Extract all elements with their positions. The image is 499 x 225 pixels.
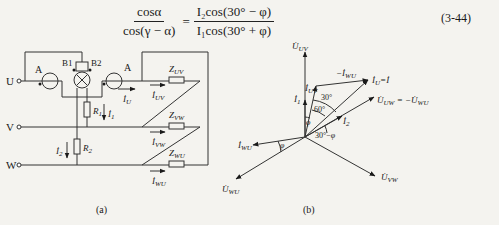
caption-b: (b) (303, 204, 315, 216)
label-i-uv: İUV (304, 83, 318, 95)
label-w: W (6, 159, 17, 171)
impedance-zvw (169, 123, 184, 129)
ammeter-1 (42, 73, 58, 89)
label-i1: İ1 (293, 94, 301, 106)
label-angle-30: 30° (321, 93, 332, 102)
label-i2: İ2 (55, 146, 63, 158)
label-b2: B2 (91, 58, 102, 68)
label-ammeter-1: A (35, 64, 43, 75)
label-iuv: İUV (151, 90, 165, 102)
label-angle-phi-1: φ (306, 118, 311, 127)
label-u: U (6, 75, 14, 87)
ammeter-2 (106, 73, 122, 89)
vector-neg-i-wu (316, 80, 368, 86)
caption-a: (a) (96, 204, 107, 216)
label-u-uw: U̇UW = −U̇WU (377, 95, 429, 107)
resistor-r1 (84, 102, 90, 117)
label-i-u: İU=İ (371, 75, 390, 87)
label-zwu: ZWU (169, 148, 186, 160)
phase-meter (74, 72, 90, 88)
terminal-u (17, 79, 21, 83)
label-u-vw: U̇VW (381, 172, 399, 184)
label-i1: İ1 (107, 109, 115, 121)
label-iwu: İWU (151, 176, 167, 188)
label-r2: R2 (82, 143, 93, 155)
label-u-wu: U̇WU (222, 184, 240, 196)
label-angle-30-minus-phi: 30°−φ (315, 131, 336, 140)
label-r1: R1 (92, 106, 102, 118)
label-angle-60: 60° (314, 105, 325, 114)
label-i-wu: İWU (237, 140, 253, 152)
label-ammeter-2: A (124, 62, 132, 73)
label-i2: İ2 (342, 116, 350, 128)
terminal-w (17, 163, 21, 167)
terminal-v (17, 125, 21, 129)
resistor-r2 (74, 139, 80, 154)
label-zuv: ZUV (169, 64, 184, 76)
label-angle-phi-2: φ (280, 141, 285, 150)
vector-u-vw (305, 137, 375, 176)
label-u-uv: U̇UV (292, 41, 309, 53)
label-v: V (6, 121, 14, 133)
label-zvw: ZVW (169, 110, 185, 122)
impedance-zuv (169, 77, 184, 83)
label-neg-i-wu: −İWU (336, 68, 357, 80)
label-b1: B1 (62, 58, 73, 68)
figure: U V W A A B1 B2 R1 R2 İ1 İ2 İU İUV İVW İ… (0, 0, 499, 225)
impedance-zwu (169, 161, 184, 167)
label-ivw: İVW (151, 137, 166, 149)
label-iu: İU (122, 94, 132, 106)
